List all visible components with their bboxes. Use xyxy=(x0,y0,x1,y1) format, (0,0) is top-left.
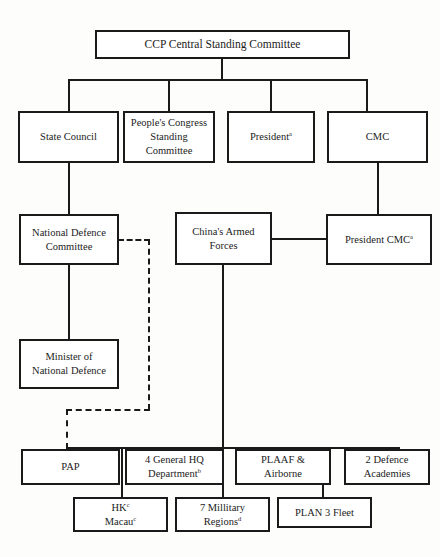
node-label: National Defence Committee xyxy=(32,226,106,254)
node-2-defence-academies[interactable]: 2 Defence Academies xyxy=(344,449,430,485)
connector-cmc-to-president-cmc xyxy=(377,162,379,214)
node-pap[interactable]: PAP xyxy=(21,449,120,485)
footnote-marker: a xyxy=(410,232,413,239)
connector-ccp-stem xyxy=(221,58,223,79)
node-label: 2 Defence Academies xyxy=(364,453,411,481)
node-cmc[interactable]: CMC xyxy=(327,111,428,163)
node-label: People's Congress Standing Committee xyxy=(131,116,207,158)
node-state-council[interactable]: State Council xyxy=(18,111,119,163)
connector-state-council-to-ndc xyxy=(68,162,70,214)
footnote-marker: a xyxy=(289,130,292,137)
dashed-connector-join-bus xyxy=(66,409,68,449)
dashed-connector-bottom xyxy=(66,409,150,411)
node-hk-macau[interactable]: HKcMacauc xyxy=(73,497,168,532)
footnote-marker: b xyxy=(198,467,201,474)
org-chart-canvas: CCP Central Standing Committee State Cou… xyxy=(0,0,440,557)
connector-drop-state-council xyxy=(68,79,70,111)
footnote-marker: c xyxy=(133,514,136,521)
node-president-cmc[interactable]: President CMCa xyxy=(326,214,432,265)
node-president[interactable]: Presidenta xyxy=(227,111,315,163)
node-label: PLAN 3 Fleet xyxy=(295,506,354,520)
node-label: PLAAF & Airborne xyxy=(261,453,305,481)
node-national-defence-committee[interactable]: National Defence Committee xyxy=(19,214,119,265)
connector-drop-peoples-congress xyxy=(168,79,170,111)
node-label: President CMC xyxy=(345,234,410,245)
node-ccp-central-standing-committee[interactable]: CCP Central Standing Committee xyxy=(95,30,350,59)
node-label: President xyxy=(250,131,289,142)
connector-drop-president xyxy=(270,79,272,111)
node-label: China's Armed Forces xyxy=(192,225,254,253)
node-plaaf-airborne[interactable]: PLAAF & Airborne xyxy=(235,449,331,485)
dashed-connector-vertical xyxy=(148,239,150,410)
node-chinas-armed-forces[interactable]: China's Armed Forces xyxy=(175,212,272,265)
node-label-hk: HK xyxy=(111,502,126,513)
node-label: CMC xyxy=(366,130,389,144)
footnote-marker: d xyxy=(238,514,241,521)
node-label: CCP Central Standing Committee xyxy=(145,37,301,52)
node-label: State Council xyxy=(40,130,97,144)
node-label: 4 General HQ Department xyxy=(145,454,204,479)
connector-armed-forces-to-president-cmc xyxy=(271,238,326,240)
connector-drop-cmc xyxy=(366,79,368,111)
node-label: PAP xyxy=(61,460,79,474)
node-7-military-regions[interactable]: 7 Millitary Regionsd xyxy=(175,497,270,532)
node-4-general-hq-department[interactable]: 4 General HQ Departmentb xyxy=(125,449,224,485)
node-peoples-congress-standing-committee[interactable]: People's Congress Standing Committee xyxy=(123,111,215,163)
connector-armed-forces-stem xyxy=(222,264,224,450)
node-plan-3-fleet[interactable]: PLAN 3 Fleet xyxy=(277,497,372,528)
connector-ndc-to-minister xyxy=(68,264,70,340)
node-label: Minister of National Defence xyxy=(32,350,106,378)
connector-row2-bus xyxy=(68,79,368,81)
dashed-connector-ndc-right xyxy=(118,239,150,241)
footnote-marker: c xyxy=(127,500,130,507)
connector-drop-hk-macau xyxy=(121,447,123,498)
node-minister-of-national-defence[interactable]: Minister of National Defence xyxy=(19,339,119,389)
node-label-macau: Macau xyxy=(105,516,134,527)
